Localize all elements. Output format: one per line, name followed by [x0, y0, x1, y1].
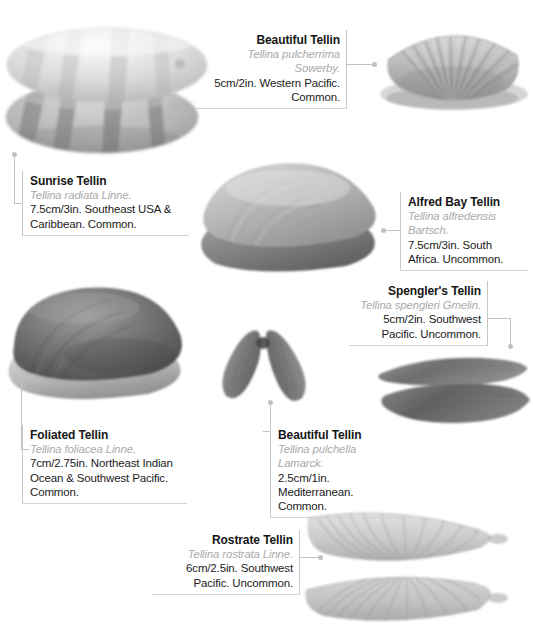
- caption-alfred-bay-tellin: Alfred Bay Tellin Tellina alfredensis Ba…: [400, 192, 528, 271]
- caption-rostrate-tellin: Rostrate Tellin Tellina rostrata Linne. …: [152, 530, 300, 595]
- caption-species-rostrate-tellin: Tellina rostrata Linne.: [159, 547, 293, 561]
- caption-title-beautiful-tellin-pulcherrima: Beautiful Tellin: [203, 33, 340, 47]
- caption-title-alfred-bay-tellin: Alfred Bay Tellin: [408, 195, 522, 209]
- caption-description-foliated-tellin: 7cm/2.75in. Northeast Indian Ocean & Sou…: [30, 456, 181, 499]
- caption-species-alfred-bay-tellin: Tellina alfredensis Bartsch.: [408, 209, 522, 237]
- caption-title-rostrate-tellin: Rostrate Tellin: [159, 533, 293, 547]
- beautiful-tellin-pulchella-photo: [216, 322, 320, 422]
- leader-line-spenglers-tellin-vertical: [510, 318, 511, 345]
- caption-description-alfred-bay-tellin: 7.5cm/3in. South Africa. Uncommon.: [408, 238, 522, 266]
- caption-description-rostrate-tellin: 6cm/2.5in. Southwest Pacific. Uncommon.: [159, 561, 293, 589]
- caption-spenglers-tellin: Spengler's Tellin Tellina spengleri Gmel…: [349, 281, 488, 346]
- leader-line-beautiful-tellin-pulcherrima: [347, 64, 374, 65]
- caption-title-spenglers-tellin: Spengler's Tellin: [356, 284, 481, 298]
- caption-title-sunrise-tellin: Sunrise Tellin: [30, 174, 183, 188]
- caption-title-foliated-tellin: Foliated Tellin: [30, 428, 181, 442]
- caption-beautiful-tellin-pulchella: Beautiful Tellin Tellina pulchella Lamar…: [270, 425, 410, 518]
- caption-description-beautiful-tellin-pulchella: 2.5cm/1in. Mediterranean. Common.: [278, 471, 404, 514]
- leader-line-spenglers-tellin-horizontal: [488, 318, 510, 319]
- caption-species-sunrise-tellin: Tellina radiata Linne.: [30, 188, 183, 202]
- caption-species-beautiful-tellin-pulcherrima: Tellina pulcherrima Sowerby.: [203, 47, 340, 75]
- caption-description-beautiful-tellin-pulcherrima: 5cm/2in. Western Pacific. Common.: [203, 76, 340, 104]
- leader-dot-rostrate-tellin: [318, 555, 323, 560]
- caption-species-spenglers-tellin: Tellina spengleri Gmelin.: [356, 298, 481, 312]
- caption-foliated-tellin: Foliated Tellin Tellina foliacea Linne. …: [22, 425, 187, 504]
- caption-description-spenglers-tellin: 5cm/2in. Southwest Pacific. Uncommon.: [356, 312, 481, 340]
- caption-species-foliated-tellin: Tellina foliacea Linne.: [30, 442, 181, 456]
- leader-line-alfred-bay-tellin: [385, 230, 400, 231]
- rostrate-tellin-photo: [302, 512, 533, 630]
- leader-dot-alfred-bay-tellin: [381, 228, 386, 233]
- caption-description-sunrise-tellin: 7.5cm/3in. Southeast USA & Caribbean. Co…: [30, 202, 183, 230]
- leader-line-sunrise-tellin-vertical: [14, 157, 15, 203]
- leader-dot-spenglers-tellin: [508, 344, 513, 349]
- plate-canvas: Sunrise Tellin Tellina radiata Linne. 7.…: [0, 0, 533, 630]
- beautiful-tellin-pulcherrima-photo: [372, 16, 532, 116]
- caption-beautiful-tellin-pulcherrima: Beautiful Tellin Tellina pulcherrima Sow…: [196, 30, 347, 109]
- caption-species-beautiful-tellin-pulchella: Tellina pulchella Lamarck.: [278, 442, 404, 470]
- leader-line-sunrise-tellin-horizontal: [14, 203, 22, 204]
- sunrise-tellin-photo: [2, 20, 217, 160]
- foliated-tellin-photo: [0, 278, 195, 413]
- caption-sunrise-tellin: Sunrise Tellin Tellina radiata Linne. 7.…: [22, 171, 189, 236]
- alfred-bay-tellin-photo: [196, 152, 396, 280]
- caption-title-beautiful-tellin-pulchella: Beautiful Tellin: [278, 428, 404, 442]
- leader-dot-beautiful-tellin-pulcherrima: [372, 62, 377, 67]
